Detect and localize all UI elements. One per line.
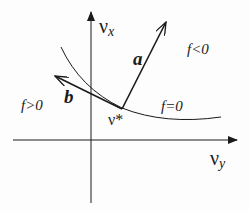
region-label-positive: f>0 <box>21 98 43 113</box>
vertical-axis-label: νx <box>99 16 114 36</box>
region-label-negative: f<0 <box>187 42 209 57</box>
horizontal-axis-label: νy <box>210 148 225 168</box>
vector-a <box>122 22 166 109</box>
vector-a-label: a <box>133 49 143 68</box>
curve-label: f=0 <box>161 99 183 114</box>
vector-b-label: b <box>64 87 74 106</box>
diagram-canvas: νx νy ν* a b f=0 f<0 f>0 <box>0 0 249 213</box>
point-label: ν* <box>108 112 123 128</box>
